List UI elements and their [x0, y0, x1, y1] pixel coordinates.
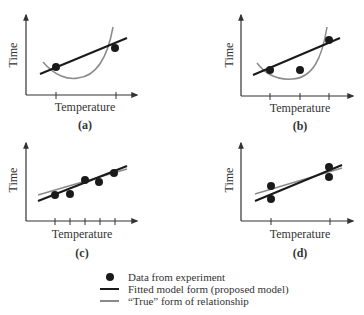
data-point — [296, 66, 304, 74]
legend-item-data: Data from experiment — [100, 271, 360, 283]
caption: (d) — [293, 246, 308, 260]
legend-item-fitted: Fitted model form (proposed model) — [100, 283, 360, 295]
y-label: Time — [6, 43, 20, 68]
data-point — [325, 163, 333, 171]
caption: (a) — [78, 118, 92, 132]
y-label: Time — [222, 43, 236, 68]
gray-line-icon — [100, 295, 122, 307]
black-line-icon — [100, 283, 122, 295]
panel-b: Time Temperature (b) — [222, 15, 353, 133]
data-point — [51, 191, 59, 199]
caption: (b) — [293, 119, 308, 133]
dot-icon — [100, 271, 122, 283]
y-label: Time — [222, 168, 236, 193]
x-label: Temperature — [55, 100, 115, 114]
x-label: Temperature — [270, 227, 330, 241]
figure-canvas: Time Temperature (a) Time Temperature (b… — [0, 0, 364, 315]
legend-label: Fitted model form (proposed model) — [128, 283, 289, 295]
legend-label: “True” form of relationship — [128, 295, 249, 307]
true-line — [255, 168, 342, 194]
data-point — [66, 190, 74, 198]
legend-item-true: “True” form of relationship — [100, 295, 360, 307]
panel-a: Time Temperature (a) — [6, 15, 137, 132]
data-point — [81, 176, 89, 184]
x-label: Temperature — [52, 227, 112, 241]
panel-d: Time Temperature (d) — [222, 143, 353, 260]
true-curve — [43, 27, 113, 78]
panel-c: Time Temperature (c) — [6, 143, 137, 260]
y-label: Time — [6, 168, 20, 193]
data-point — [325, 173, 333, 181]
data-point — [111, 44, 119, 52]
data-point — [52, 63, 60, 71]
x-label: Temperature — [270, 101, 330, 115]
data-point — [267, 182, 275, 190]
data-point — [95, 178, 103, 186]
legend-label: Data from experiment — [128, 271, 225, 283]
data-point — [267, 195, 275, 203]
legend: Data from experiment Fitted model form (… — [100, 271, 360, 307]
data-point — [110, 169, 118, 177]
caption: (c) — [75, 246, 88, 260]
data-point — [325, 36, 333, 44]
data-point — [266, 66, 274, 74]
